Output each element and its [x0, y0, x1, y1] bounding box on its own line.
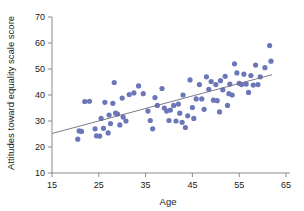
- x-tick-label: 15: [47, 180, 57, 190]
- data-point: [194, 96, 199, 101]
- data-point: [102, 100, 107, 105]
- x-tick-label: 65: [281, 180, 291, 190]
- y-tick-label: 70: [35, 12, 45, 22]
- data-point: [112, 80, 117, 85]
- data-point: [131, 90, 136, 95]
- x-tick-label: 55: [234, 180, 244, 190]
- data-point: [79, 129, 84, 134]
- y-tick-label: 20: [35, 142, 45, 152]
- data-point: [148, 118, 153, 123]
- data-point: [141, 91, 146, 96]
- data-point: [101, 126, 106, 131]
- data-point: [253, 63, 258, 68]
- data-point: [97, 133, 102, 138]
- data-point: [92, 126, 97, 131]
- axes-layer: [52, 17, 290, 173]
- data-point: [255, 82, 260, 87]
- data-point: [262, 65, 267, 70]
- data-point: [106, 130, 111, 135]
- data-point: [82, 99, 87, 104]
- y-tick-label: 10: [35, 168, 45, 178]
- data-point: [136, 83, 141, 88]
- data-point: [190, 105, 195, 110]
- data-point: [166, 118, 171, 123]
- data-point: [226, 91, 231, 96]
- data-point: [202, 107, 207, 112]
- x-tick-label: 35: [141, 180, 151, 190]
- x-tick-label: 25: [94, 180, 104, 190]
- data-point: [217, 109, 222, 114]
- data-point: [117, 122, 122, 127]
- data-point: [267, 43, 272, 48]
- data-point: [168, 107, 173, 112]
- data-point: [152, 95, 157, 100]
- data-point: [197, 82, 202, 87]
- data-point: [150, 126, 155, 131]
- data-point: [268, 59, 273, 64]
- data-point: [204, 74, 209, 79]
- chart-canvas: 10203040506070152535455565 Age Attitudes…: [0, 0, 304, 211]
- regression-trend-line: [52, 75, 272, 134]
- data-point: [180, 120, 185, 125]
- data-point: [123, 118, 128, 123]
- x-tick-label: 45: [187, 180, 197, 190]
- data-point: [199, 96, 204, 101]
- data-point: [232, 61, 237, 66]
- data-point: [106, 112, 111, 117]
- regression-line: [52, 75, 272, 134]
- scatter-plot-figure: 10203040506070152535455565 Age Attitudes…: [0, 0, 304, 211]
- data-point: [171, 103, 176, 108]
- data-point: [75, 137, 80, 142]
- data-point: [110, 101, 115, 106]
- data-point: [213, 82, 218, 87]
- y-tick-label: 40: [35, 90, 45, 100]
- y-axis-title: Attitudes toward equality scale score: [5, 16, 16, 170]
- data-point: [183, 125, 188, 130]
- data-point: [225, 103, 230, 108]
- data-point: [234, 70, 239, 75]
- y-tick-label: 60: [35, 38, 45, 48]
- y-tick-label: 50: [35, 64, 45, 74]
- data-point: [209, 79, 214, 84]
- x-axis-title: Age: [160, 196, 177, 207]
- data-point: [191, 116, 196, 121]
- data-point: [108, 121, 113, 126]
- data-point: [145, 109, 150, 114]
- data-point: [173, 118, 178, 123]
- data-point: [185, 113, 190, 118]
- data-point: [218, 78, 223, 83]
- data-point: [87, 99, 92, 104]
- axis-ticks-layer: 10203040506070152535455565: [35, 12, 291, 190]
- data-point: [248, 73, 253, 78]
- data-point: [120, 96, 125, 101]
- data-point: [180, 92, 185, 97]
- data-point: [215, 98, 220, 103]
- data-point: [241, 72, 246, 77]
- data-point: [223, 74, 228, 79]
- data-point: [246, 90, 251, 95]
- data-point: [187, 77, 192, 82]
- data-point: [127, 92, 132, 97]
- data-point: [177, 111, 182, 116]
- data-point: [159, 86, 164, 91]
- data-point: [251, 83, 256, 88]
- data-points-layer: [75, 43, 273, 142]
- y-tick-label: 30: [35, 116, 45, 126]
- data-point: [176, 102, 181, 107]
